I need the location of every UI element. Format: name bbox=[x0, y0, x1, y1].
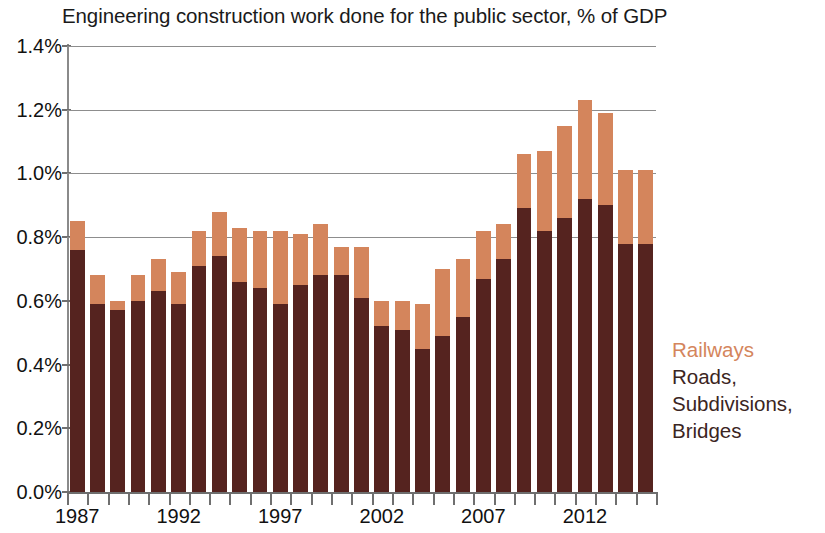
bar-1987 bbox=[70, 221, 85, 492]
x-tick-mark bbox=[453, 494, 455, 505]
bar-2005 bbox=[435, 269, 450, 492]
bar-segment-roads bbox=[456, 317, 471, 492]
x-tick-mark bbox=[636, 494, 638, 505]
bar-segment-railways bbox=[618, 170, 633, 243]
legend-item-roads-line3: Bridges bbox=[672, 417, 793, 444]
bar-1991 bbox=[151, 259, 166, 492]
bar-segment-railways bbox=[70, 221, 85, 250]
y-tick-label: 0.4% bbox=[0, 353, 62, 376]
bar-segment-railways bbox=[638, 170, 653, 243]
bar-1992 bbox=[171, 272, 186, 492]
x-tick-mark bbox=[229, 494, 231, 505]
x-tick-mark bbox=[67, 494, 69, 505]
bar-2010 bbox=[537, 151, 552, 492]
bar-segment-roads bbox=[253, 288, 268, 492]
bar-segment-roads bbox=[496, 259, 511, 492]
chart-legend: Railways Roads, Subdivisions, Bridges bbox=[672, 336, 793, 444]
x-tick-mark bbox=[473, 494, 475, 505]
y-tick-label: 1.0% bbox=[0, 162, 62, 185]
legend-item-roads-line2: Subdivisions, bbox=[672, 390, 793, 417]
bar-segment-roads bbox=[517, 208, 532, 492]
bar-2006 bbox=[456, 259, 471, 492]
x-tick-mark bbox=[108, 494, 110, 505]
bar-1994 bbox=[212, 212, 227, 492]
bar-segment-roads bbox=[110, 310, 125, 492]
bar-segment-railways bbox=[273, 231, 288, 304]
x-tick-mark bbox=[412, 494, 414, 505]
bar-segment-roads bbox=[537, 231, 552, 492]
x-tick-label: 2002 bbox=[360, 505, 405, 528]
bar-segment-railways bbox=[476, 231, 491, 279]
gridline-0.0% bbox=[67, 492, 656, 494]
x-tick-mark bbox=[595, 494, 597, 505]
bar-segment-roads bbox=[354, 298, 369, 492]
x-tick-label: 2012 bbox=[563, 505, 608, 528]
bar-segment-roads bbox=[618, 244, 633, 492]
bar-1997 bbox=[273, 231, 288, 492]
bar-1995 bbox=[232, 228, 247, 492]
bar-segment-railways bbox=[456, 259, 471, 316]
x-tick-mark bbox=[87, 494, 89, 505]
bar-segment-roads bbox=[293, 285, 308, 492]
bar-2007 bbox=[476, 231, 491, 492]
y-tick-label: 1.2% bbox=[0, 98, 62, 121]
bar-segment-roads bbox=[598, 205, 613, 492]
bar-2001 bbox=[354, 247, 369, 492]
x-tick-mark bbox=[615, 494, 617, 505]
bar-1990 bbox=[131, 275, 146, 492]
bar-2013 bbox=[598, 113, 613, 492]
bar-1988 bbox=[90, 275, 105, 492]
bar-segment-railways bbox=[293, 234, 308, 285]
bar-2015 bbox=[638, 170, 653, 492]
bar-segment-roads bbox=[557, 218, 572, 492]
x-tick-mark bbox=[270, 494, 272, 505]
x-tick-mark bbox=[514, 494, 516, 505]
bar-segment-roads bbox=[395, 330, 410, 492]
bar-2002 bbox=[374, 301, 389, 492]
x-tick-mark bbox=[351, 494, 353, 505]
bar-segment-railways bbox=[578, 100, 593, 199]
bar-segment-roads bbox=[313, 275, 328, 492]
gridline-1.2% bbox=[67, 110, 656, 111]
x-tick-mark bbox=[494, 494, 496, 505]
chart-title: Engineering construction work done for t… bbox=[62, 4, 822, 28]
x-tick-mark bbox=[331, 494, 333, 505]
bar-segment-roads bbox=[578, 199, 593, 492]
bar-segment-railways bbox=[374, 301, 389, 326]
bar-2000 bbox=[334, 247, 349, 492]
bar-1989 bbox=[110, 301, 125, 492]
bar-segment-roads bbox=[151, 291, 166, 492]
bar-segment-railways bbox=[557, 126, 572, 218]
x-tick-mark bbox=[189, 494, 191, 505]
x-tick-mark bbox=[169, 494, 171, 505]
x-tick-mark bbox=[656, 494, 658, 505]
bar-segment-roads bbox=[90, 304, 105, 492]
bar-segment-roads bbox=[192, 266, 207, 492]
bar-2008 bbox=[496, 224, 511, 492]
x-tick-mark bbox=[311, 494, 313, 505]
bar-segment-railways bbox=[171, 272, 186, 304]
bar-2004 bbox=[415, 304, 430, 492]
bar-segment-railways bbox=[537, 151, 552, 231]
x-tick-mark bbox=[575, 494, 577, 505]
bar-segment-railways bbox=[354, 247, 369, 298]
y-tick-label: 0.8% bbox=[0, 226, 62, 249]
bar-segment-railways bbox=[192, 231, 207, 266]
bar-segment-railways bbox=[334, 247, 349, 276]
bar-segment-roads bbox=[435, 336, 450, 492]
plot-area bbox=[67, 46, 656, 492]
gridline-1.4% bbox=[67, 46, 656, 47]
bar-2011 bbox=[557, 126, 572, 492]
y-tick-label: 0.6% bbox=[0, 289, 62, 312]
bar-segment-roads bbox=[131, 301, 146, 492]
bar-segment-railways bbox=[415, 304, 430, 349]
bar-segment-roads bbox=[212, 256, 227, 492]
bar-segment-roads bbox=[334, 275, 349, 492]
bar-segment-roads bbox=[638, 244, 653, 492]
bar-2009 bbox=[517, 154, 532, 492]
bar-2012 bbox=[578, 100, 593, 492]
x-tick-mark bbox=[392, 494, 394, 505]
x-tick-mark bbox=[554, 494, 556, 505]
x-tick-mark bbox=[148, 494, 150, 505]
bar-segment-railways bbox=[110, 301, 125, 311]
